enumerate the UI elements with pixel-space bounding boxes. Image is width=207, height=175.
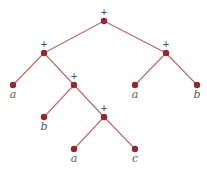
tree-edge [74, 117, 104, 149]
leaf-label: c [132, 152, 138, 165]
tree-edge [104, 21, 166, 53]
tree-nodes [10, 18, 200, 152]
leaf-label: a [71, 152, 78, 165]
tree-edge [104, 117, 135, 149]
leaf-label: a [132, 88, 139, 101]
operator-label: + [100, 103, 108, 113]
tree-edge [166, 53, 197, 85]
operator-label: + [40, 39, 48, 49]
tree-labels: +++a+abb+ac [10, 7, 201, 165]
tree-edge [13, 53, 44, 85]
operator-label: + [162, 39, 170, 49]
operator-label: + [100, 7, 108, 17]
operator-node [101, 18, 107, 24]
operator-node [163, 50, 169, 56]
operator-node [101, 114, 107, 120]
leaf-label: b [193, 88, 200, 101]
leaf-label: a [10, 88, 17, 101]
tree-edge [135, 53, 166, 85]
operator-node [41, 50, 47, 56]
expression-tree-diagram: +++a+abb+ac [0, 0, 207, 175]
leaf-label: b [40, 120, 47, 133]
operator-node [71, 82, 77, 88]
operator-label: + [70, 71, 78, 81]
tree-edge [44, 85, 74, 117]
tree-edge [44, 21, 104, 53]
